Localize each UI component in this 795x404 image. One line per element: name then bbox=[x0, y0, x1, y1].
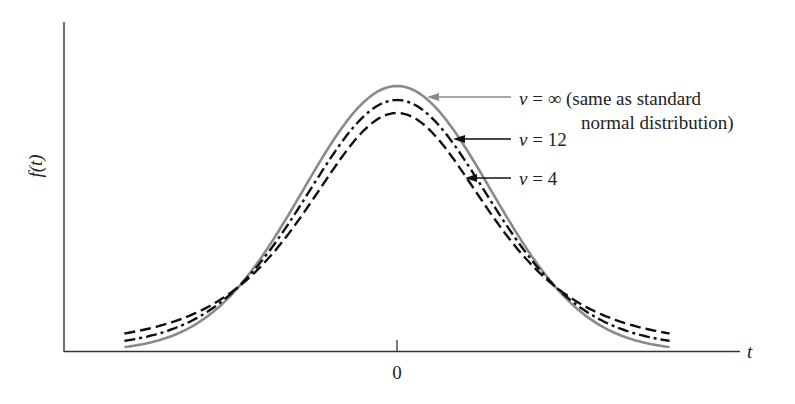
x-tick-label-zero: 0 bbox=[392, 362, 402, 383]
arrow-v-infinity bbox=[427, 93, 511, 101]
curve-t-v4 bbox=[124, 113, 669, 334]
arrow-v12 bbox=[453, 135, 511, 143]
arrow-v4 bbox=[465, 174, 511, 182]
annotation-v12: v = 12 bbox=[519, 129, 567, 150]
y-axis-label: f(t) bbox=[25, 154, 47, 177]
t-distribution-chart: v = ∞ (same as standard normal distribut… bbox=[0, 0, 795, 404]
annotation-v4: v = 4 bbox=[519, 168, 558, 189]
x-axis-label: t bbox=[747, 341, 753, 362]
curve-t-v12 bbox=[124, 100, 669, 341]
annotation-v-infinity-line2: normal distribution) bbox=[581, 112, 734, 134]
annotation-v-infinity-line1: v = ∞ (same as standard bbox=[519, 88, 702, 110]
